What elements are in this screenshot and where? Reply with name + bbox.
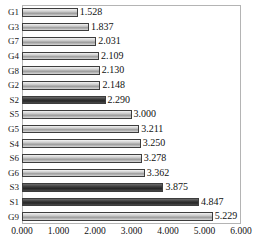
bar [22,110,132,119]
bar [22,52,99,61]
bar-track: 2.031 [22,34,263,49]
bar [22,81,100,90]
bar-value-label: 2.130 [100,63,125,78]
bar-value-label: 5.229 [213,209,238,224]
bar-track: 3.211 [22,122,263,137]
bar-row: G63.362 [0,166,263,181]
x-axis-tick-label: 2.000 [84,226,105,237]
bar-row: G42.109 [0,49,263,64]
bar-row: G72.031 [0,34,263,49]
bar-value-label: 1.837 [89,20,114,35]
category-label: S3 [0,182,22,192]
x-axis: 0.0001.0002.0003.0004.0005.0006.000 [22,226,241,246]
bar-value-label: 2.148 [100,78,125,93]
category-label: G6 [0,168,22,178]
bar-track: 2.130 [22,63,263,78]
bar-row: S53.000 [0,107,263,122]
bar-row: S33.875 [0,180,263,195]
bar-row: G11.528 [0,5,263,20]
bar [22,212,213,221]
bar-row: G22.148 [0,78,263,93]
bar-row: G31.837 [0,20,263,35]
bar-track: 3.000 [22,107,263,122]
category-label: G9 [0,212,22,222]
x-axis-tick-label: 5.000 [194,226,215,237]
bar-track: 3.250 [22,136,263,151]
bar-value-label: 3.362 [145,166,170,181]
bar-value-label: 1.528 [78,5,103,20]
bar-row: S63.278 [0,151,263,166]
bar-track: 2.109 [22,49,263,64]
bar-track: 1.837 [22,20,263,35]
bar-track: 1.528 [22,5,263,20]
bar-value-label: 3.278 [142,151,167,166]
bar [22,169,145,178]
bar-track: 4.847 [22,195,263,210]
x-axis-tick-label: 4.000 [157,226,178,237]
bar-row: S22.290 [0,93,263,108]
category-label: G5 [0,124,22,134]
category-label: G1 [0,7,22,17]
bar [22,8,78,17]
x-axis-tick-label: 1.000 [48,226,69,237]
bar-value-label: 4.847 [199,195,224,210]
bar [22,183,163,192]
bar-track: 3.278 [22,151,263,166]
bar [22,96,106,105]
bar [22,66,100,75]
x-axis-tick-label: 0.000 [11,226,32,237]
category-label: G8 [0,66,22,76]
bar-row: G82.130 [0,63,263,78]
bar-track: 3.875 [22,180,263,195]
bar-row: G95.229 [0,209,263,224]
bar [22,154,142,163]
bar-track: 3.362 [22,166,263,181]
bar-value-label: 3.000 [132,107,157,122]
bar-value-label: 3.875 [163,180,188,195]
bar [22,125,139,134]
bar-chart: G11.528G31.837G72.031G42.109G82.130G22.1… [0,0,263,251]
category-label: S4 [0,139,22,149]
bar-track: 2.290 [22,93,263,108]
category-label: G4 [0,51,22,61]
bar-value-label: 2.290 [106,93,131,108]
category-label: S1 [0,197,22,207]
bar-rows-container: G11.528G31.837G72.031G42.109G82.130G22.1… [0,5,263,224]
category-label: G2 [0,80,22,90]
bar-row: S14.847 [0,195,263,210]
category-label: S2 [0,95,22,105]
bar-track: 5.229 [22,209,263,224]
category-label: S5 [0,109,22,119]
bar-row: G53.211 [0,122,263,137]
bar-track: 2.148 [22,78,263,93]
bar [22,23,89,32]
bar-value-label: 2.031 [96,34,121,49]
bar-row: S43.250 [0,136,263,151]
bar [22,37,96,46]
category-label: G3 [0,22,22,32]
category-label: G7 [0,36,22,46]
bar-value-label: 2.109 [99,49,124,64]
x-axis-tick-label: 6.000 [230,226,251,237]
bar [22,139,141,148]
bar [22,198,199,207]
bar-value-label: 3.211 [139,122,163,137]
bar-value-label: 3.250 [141,136,166,151]
x-axis-tick-label: 3.000 [121,226,142,237]
category-label: S6 [0,153,22,163]
